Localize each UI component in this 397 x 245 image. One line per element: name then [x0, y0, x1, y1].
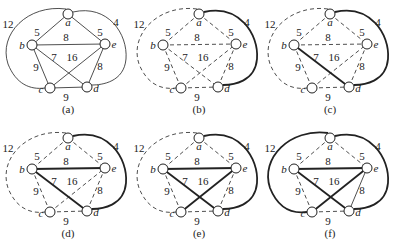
- panel-c: 558716989124abecd(c): [265, 8, 389, 116]
- edge-weight-ed: 8: [97, 184, 103, 196]
- edge-weight-ce: 16: [67, 175, 79, 187]
- vertex-label-b: b: [281, 163, 287, 175]
- edge-weight-ad: 4: [113, 140, 119, 152]
- vertex-b: [27, 164, 37, 174]
- vertex-e: [362, 39, 372, 49]
- vertex-label-d: d: [355, 82, 361, 94]
- vertex-label-e: e: [374, 162, 379, 174]
- edge-weight-ae: 5: [359, 26, 365, 38]
- vertex-label-e: e: [374, 38, 379, 50]
- vertex-label-b: b: [281, 39, 287, 51]
- vertex-b: [158, 164, 168, 174]
- edge-weight-ae: 5: [228, 150, 234, 162]
- vertex-label-c: c: [301, 83, 306, 95]
- vertex-d: [344, 82, 354, 92]
- vertex-label-d: d: [93, 82, 99, 94]
- edge-weight-be: 8: [194, 155, 200, 167]
- edge-weight-ad: 4: [375, 140, 381, 152]
- edge-weight-ab: 5: [165, 26, 171, 38]
- edge-weight-cd: 9: [194, 215, 200, 227]
- edge-weight-ae: 5: [97, 150, 103, 162]
- vertex-b: [289, 40, 299, 50]
- vertex-c: [45, 207, 55, 217]
- edge-weight-ab: 5: [296, 26, 302, 38]
- panel-a: 558716989124abecd(a): [3, 8, 127, 116]
- edge-bd: [294, 45, 349, 87]
- edge-weight-be: 8: [63, 31, 69, 43]
- vertex-b: [289, 164, 299, 174]
- vertex-c: [176, 207, 186, 217]
- panel-b: 558716989124abecd(b): [134, 8, 258, 116]
- edge-weight-ad: 4: [244, 140, 250, 152]
- edge-weight-ac: 12: [265, 142, 276, 154]
- edge-weight-bc: 9: [33, 185, 39, 197]
- edge-weight-ab: 5: [165, 150, 171, 162]
- edge-weight-ed: 8: [359, 184, 365, 196]
- panel-d: 558716989124abecd(d): [3, 132, 127, 240]
- vertex-label-d: d: [224, 82, 230, 94]
- edge-weight-bc: 9: [33, 61, 39, 73]
- edge-be: [32, 168, 105, 169]
- edge-weight-ab: 5: [34, 150, 40, 162]
- vertex-label-b: b: [150, 163, 156, 175]
- edge-weight-ac: 12: [3, 142, 14, 154]
- edge-cd: [312, 211, 349, 212]
- vertex-label-d: d: [93, 206, 99, 218]
- edge-weight-ce: 16: [329, 51, 341, 63]
- vertex-label-e: e: [243, 162, 248, 174]
- vertex-e: [231, 39, 241, 49]
- edge-weight-ed: 8: [228, 60, 234, 72]
- vertex-d: [82, 206, 92, 216]
- edge-weight-ae: 5: [359, 150, 365, 162]
- vertex-label-d: d: [224, 206, 230, 218]
- vertex-label-c: c: [301, 207, 306, 219]
- edge-be: [294, 168, 367, 169]
- edge-be: [163, 168, 236, 169]
- panel-caption: (f): [325, 227, 336, 240]
- edge-weight-bd: 7: [51, 175, 57, 187]
- vertex-label-a: a: [65, 16, 71, 28]
- edge-weight-bc: 9: [164, 61, 170, 73]
- edge-weight-bd: 7: [182, 51, 188, 63]
- edge-weight-be: 8: [325, 31, 331, 43]
- edge-weight-bd: 7: [313, 51, 319, 63]
- vertex-label-e: e: [112, 38, 117, 50]
- vertex-d: [344, 206, 354, 216]
- edge-weight-ed: 8: [228, 184, 234, 196]
- edge-cd: [181, 87, 218, 88]
- edge-weight-ac: 12: [134, 18, 145, 30]
- edge-weight-ce: 16: [67, 51, 79, 63]
- vertex-label-b: b: [19, 163, 25, 175]
- graph-diagram: 558716989124abecd(a)558716989124abecd(b)…: [0, 0, 397, 245]
- edge-weight-ac: 12: [134, 142, 145, 154]
- vertex-label-a: a: [65, 140, 71, 152]
- edge-weight-cd: 9: [194, 91, 200, 103]
- edge-weight-ad: 4: [113, 16, 119, 28]
- vertex-d: [213, 82, 223, 92]
- edge-weight-cd: 9: [63, 91, 69, 103]
- vertex-label-a: a: [327, 16, 333, 28]
- edge-weight-ac: 12: [3, 18, 14, 30]
- vertex-label-a: a: [327, 140, 333, 152]
- edge-bd: [32, 169, 87, 211]
- vertex-label-a: a: [196, 16, 202, 28]
- edge-weight-ab: 5: [34, 26, 40, 38]
- edge-weight-bd: 7: [313, 175, 319, 187]
- edge-weight-bd: 7: [51, 51, 57, 63]
- edge-weight-bc: 9: [164, 185, 170, 197]
- edge-weight-ad: 4: [244, 16, 250, 28]
- edge-weight-bc: 9: [295, 61, 301, 73]
- edge-weight-ed: 8: [97, 60, 103, 72]
- edge-weight-ce: 16: [198, 51, 210, 63]
- edge-weight-bd: 7: [182, 175, 188, 187]
- edge-weight-be: 8: [194, 31, 200, 43]
- vertex-e: [100, 39, 110, 49]
- edge-weight-ae: 5: [228, 26, 234, 38]
- edge-be: [294, 44, 367, 45]
- edge-weight-ab: 5: [296, 150, 302, 162]
- edge-be: [32, 44, 105, 45]
- vertex-b: [158, 40, 168, 50]
- vertex-e: [100, 163, 110, 173]
- edge-weight-ce: 16: [329, 175, 341, 187]
- panel-e: 558716989124abecd(e): [134, 132, 258, 240]
